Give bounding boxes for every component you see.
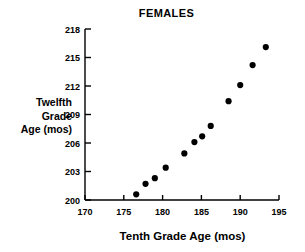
data-point [142,181,148,187]
x-tick-label: 170 [77,207,92,217]
x-tick-label: 195 [271,207,286,217]
x-tick-label: 175 [116,207,131,217]
x-tick-label: 180 [155,207,170,217]
x-axis-label: Tenth Grade Age (mos) [60,230,305,242]
plot-area: 170175180185190195200203206209212215218 [0,0,305,252]
y-tick-label: 200 [65,196,80,206]
data-point [133,191,139,197]
data-point [225,98,231,104]
y-tick-label: 212 [65,82,80,92]
y-tick-label: 206 [65,139,80,149]
data-point [163,165,169,171]
y-tick-label: 218 [65,25,80,35]
data-point [250,62,256,68]
y-tick-label: 215 [65,53,80,63]
data-point [199,133,205,139]
scatter-chart: FEMALES Twelfth Grade Age (mos) 17017518… [0,0,305,252]
x-tick-label: 190 [233,207,248,217]
data-point [191,139,197,145]
data-point [237,82,243,88]
x-tick-label: 185 [194,207,209,217]
y-tick-label: 209 [65,110,80,120]
y-tick-label: 203 [65,167,80,177]
data-point [263,44,269,50]
data-point [208,123,214,129]
data-point [152,175,158,181]
data-point [181,150,187,156]
